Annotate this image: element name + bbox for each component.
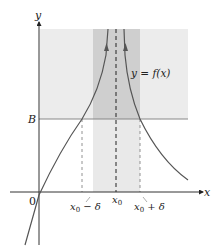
x0-label: x0 bbox=[112, 194, 122, 207]
curve-label: y = f(x) bbox=[130, 67, 170, 79]
x0-plus-delta-label: x0 + δ bbox=[134, 201, 165, 214]
x0-minus-delta-label: x0 − δ bbox=[70, 201, 101, 214]
y-axis-label: y bbox=[34, 9, 42, 22]
origin-label: 0 bbox=[29, 195, 36, 208]
x-axis-label: x bbox=[204, 186, 211, 199]
B-label: B bbox=[27, 113, 36, 126]
infinite-limit-diagram: y x 0 B y = f(x) x0 x0 − δ x0 + δ bbox=[0, 0, 213, 246]
